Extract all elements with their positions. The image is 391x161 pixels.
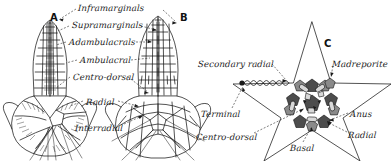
label-radial-a: Radial — [86, 98, 115, 107]
label-centro-dorsal-a: Centro-dorsal — [73, 73, 135, 82]
label-interradial: Interradial — [75, 124, 123, 133]
label-centro-dorsal-c: Centro-dorsal — [196, 133, 258, 142]
label-madreporite: Madreporite — [332, 60, 388, 69]
label-anus: Anus — [350, 110, 373, 119]
panel-letter-a: A — [50, 12, 58, 23]
label-adambulacrals: Adambulacrals — [69, 38, 136, 47]
madreporite-plate — [325, 78, 335, 88]
label-supramarginals: Supramarginals — [72, 21, 143, 30]
label-inframarginals: Inframarginals — [78, 4, 145, 13]
label-secondary-radial: Secondary radial — [198, 60, 274, 69]
label-radial-c: Radial — [348, 131, 377, 140]
label-terminal: Terminal — [201, 110, 241, 119]
panel-letter-b: B — [180, 12, 188, 23]
terminal-plate — [239, 80, 244, 85]
label-basal: Basal — [290, 144, 315, 153]
label-ambulacral: Ambulacral — [80, 56, 132, 65]
panel-letter-c: C — [324, 38, 331, 49]
stone-canal-coil — [244, 81, 289, 86]
figure-root: .ln{fill:none;stroke:#1a1a1a;stroke-widt… — [0, 0, 391, 161]
